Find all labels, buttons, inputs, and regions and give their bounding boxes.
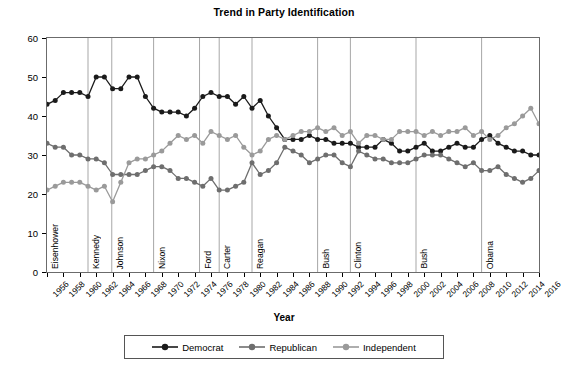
data-point-republican — [438, 153, 443, 158]
data-point-republican — [258, 172, 263, 177]
x-tick-label: 2012 — [510, 279, 530, 299]
data-point-republican — [291, 149, 296, 154]
data-point-republican — [225, 188, 230, 193]
legend-item-republican[interactable]: Republican — [239, 338, 317, 356]
data-point-republican — [496, 164, 501, 169]
data-point-independent — [258, 149, 263, 154]
data-point-democrat — [274, 125, 279, 130]
y-tick-label: 60 — [12, 33, 38, 44]
x-tick-mark — [277, 273, 278, 277]
president-label: Nixon — [157, 247, 167, 269]
data-point-republican — [86, 156, 91, 161]
x-tick-label: 2014 — [526, 279, 546, 299]
x-tick-mark — [375, 273, 376, 277]
data-point-republican — [422, 153, 427, 158]
data-point-republican — [512, 176, 517, 181]
x-tick-mark — [359, 273, 360, 277]
data-point-independent — [381, 137, 386, 142]
data-point-independent — [127, 160, 132, 165]
data-point-republican — [53, 145, 58, 150]
x-tick-label: 1990 — [329, 279, 349, 299]
data-point-independent — [537, 121, 540, 126]
data-point-independent — [151, 153, 156, 158]
legend-item-democrat[interactable]: Democrat — [152, 338, 223, 356]
x-tick-mark — [473, 273, 474, 277]
data-point-republican — [143, 168, 148, 173]
data-point-independent — [323, 129, 328, 134]
data-point-independent — [266, 137, 271, 142]
president-label: Ford — [203, 251, 213, 269]
president-label: Clinton — [353, 242, 363, 269]
data-point-democrat — [512, 149, 517, 154]
data-point-democrat — [299, 137, 304, 142]
data-point-independent — [479, 129, 484, 134]
data-point-democrat — [340, 141, 345, 146]
data-point-independent — [282, 137, 287, 142]
x-tick-mark — [211, 273, 212, 277]
data-point-democrat — [209, 90, 214, 95]
data-point-republican — [414, 156, 419, 161]
data-point-republican — [463, 164, 468, 169]
data-point-republican — [364, 153, 369, 158]
data-point-independent — [389, 137, 394, 142]
legend-label: Republican — [269, 342, 317, 353]
data-point-independent — [512, 121, 517, 126]
data-point-republican — [389, 160, 394, 165]
data-point-republican — [184, 176, 189, 181]
data-point-democrat — [102, 75, 107, 80]
data-point-republican — [192, 180, 197, 185]
x-tick-label: 2002 — [428, 279, 448, 299]
x-tick-mark — [293, 273, 294, 277]
data-point-democrat — [446, 145, 451, 150]
data-point-republican — [315, 156, 320, 161]
x-tick-mark — [113, 273, 114, 277]
data-point-independent — [315, 125, 320, 130]
x-tick-mark — [506, 273, 507, 277]
x-tick-mark — [162, 273, 163, 277]
data-point-republican — [430, 153, 435, 158]
data-point-independent — [94, 188, 99, 193]
data-point-independent — [143, 156, 148, 161]
data-point-independent — [405, 129, 410, 134]
data-point-democrat — [151, 106, 156, 111]
legend-item-independent[interactable]: Independent — [333, 338, 416, 356]
data-point-republican — [307, 160, 312, 165]
data-point-independent — [340, 133, 345, 138]
x-tick-mark — [391, 273, 392, 277]
x-tick-label: 1998 — [395, 279, 415, 299]
data-point-democrat — [110, 86, 115, 91]
data-point-democrat — [225, 94, 230, 99]
data-point-republican — [487, 168, 492, 173]
data-point-republican — [102, 160, 107, 165]
data-point-republican — [446, 156, 451, 161]
x-tick-mark — [244, 273, 245, 277]
data-point-independent — [307, 129, 312, 134]
president-label: Reagan — [255, 239, 265, 269]
data-point-republican — [200, 184, 205, 189]
data-point-independent — [225, 137, 230, 142]
data-point-democrat — [159, 110, 164, 115]
data-point-democrat — [53, 98, 58, 103]
data-point-independent — [446, 129, 451, 134]
data-point-democrat — [143, 94, 148, 99]
x-tick-mark — [326, 273, 327, 277]
x-tick-label: 1978 — [231, 279, 251, 299]
data-point-republican — [528, 176, 533, 181]
data-point-republican — [520, 180, 525, 185]
legend-marker-icon — [239, 338, 265, 356]
data-point-democrat — [397, 149, 402, 154]
x-tick-label: 2004 — [444, 279, 464, 299]
data-point-independent — [233, 133, 238, 138]
y-tick-label: 50 — [12, 72, 38, 83]
data-point-independent — [184, 137, 189, 142]
x-tick-mark — [490, 273, 491, 277]
x-tick-label: 2008 — [477, 279, 497, 299]
x-tick-label: 1964 — [116, 279, 136, 299]
data-point-democrat — [47, 102, 50, 107]
data-point-republican — [61, 145, 66, 150]
data-point-republican — [381, 156, 386, 161]
president-label: Kennedy — [91, 235, 101, 269]
legend-marker-icon — [333, 338, 359, 356]
president-label: Carter — [222, 245, 232, 269]
data-point-democrat — [348, 141, 353, 146]
